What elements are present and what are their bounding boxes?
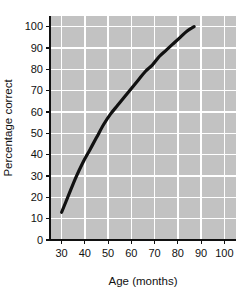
x-tick-label: 40 — [79, 247, 91, 259]
plot-area-background — [50, 16, 236, 240]
x-axis-tick-labels: 30405060708090100 — [56, 247, 234, 259]
x-tick-label: 50 — [102, 247, 114, 259]
y-tick-label: 20 — [31, 191, 43, 203]
y-tick-label: 50 — [31, 127, 43, 139]
y-tick-label: 70 — [31, 84, 43, 96]
x-axis-title: Age (months) — [108, 275, 177, 287]
x-tick-label: 100 — [215, 247, 233, 259]
y-tick-label: 80 — [31, 63, 43, 75]
y-tick-label: 10 — [31, 212, 43, 224]
x-tick-label: 80 — [172, 247, 184, 259]
chart-figure: 0102030405060708090100 30405060708090100… — [0, 0, 247, 292]
y-tick-label: 0 — [37, 234, 43, 246]
x-tick-label: 90 — [195, 247, 207, 259]
x-tick-label: 70 — [149, 247, 161, 259]
y-tick-label: 30 — [31, 170, 43, 182]
x-tick-label: 60 — [125, 247, 137, 259]
y-tick-label: 60 — [31, 106, 43, 118]
y-axis-title: Percentage correct — [2, 79, 14, 177]
line-chart: 0102030405060708090100 30405060708090100… — [0, 0, 247, 292]
y-tick-label: 90 — [31, 42, 43, 54]
y-tick-label: 40 — [31, 148, 43, 160]
x-tick-label: 30 — [56, 247, 68, 259]
y-axis-tick-labels: 0102030405060708090100 — [25, 20, 43, 245]
y-tick-label: 100 — [25, 20, 43, 32]
